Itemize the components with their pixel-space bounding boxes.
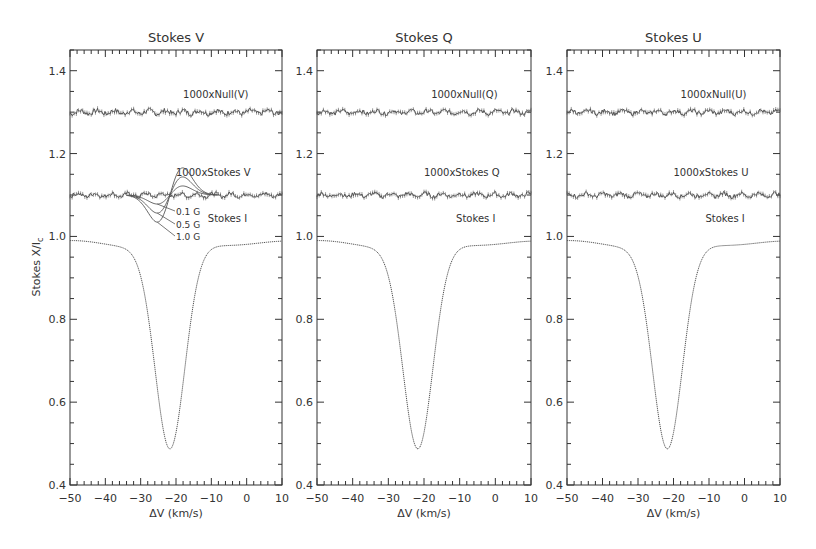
chart-canvas: Stokes V−50−40−30−20−10010ΔV (km/s)0.40.…: [0, 0, 816, 549]
y-tick-label: 0.4: [49, 479, 67, 492]
x-tick-label: 0: [492, 492, 499, 505]
model-label: 1.0 G: [176, 232, 200, 242]
series-label: 1000xStokes V: [176, 167, 251, 178]
x-tick-label: −40: [94, 492, 117, 505]
x-axis-label: ΔV (km/s): [397, 507, 451, 520]
series-label: Stokes I: [456, 213, 495, 224]
y-tick-label: 1.2: [296, 148, 314, 161]
series-label: Stokes I: [705, 213, 744, 224]
x-tick-label: −40: [591, 492, 614, 505]
y-tick-label: 0.8: [546, 313, 564, 326]
x-tick-label: 0: [243, 492, 250, 505]
y-tick-label: 0.8: [296, 313, 314, 326]
y-tick-label: 0.6: [49, 396, 67, 409]
y-tick-label: 1.0: [546, 230, 564, 243]
y-tick-label: 1.2: [546, 148, 564, 161]
y-axis-label: Stokes X/Ic: [30, 238, 45, 297]
y-tick-label: 1.0: [49, 230, 67, 243]
y-tick-label: 1.2: [49, 148, 67, 161]
panel-stokes-q: Stokes Q−50−40−30−20−10010ΔV (km/s)0.40.…: [296, 30, 539, 520]
stokes-i-profile: [567, 241, 780, 449]
x-tick-label: −50: [58, 492, 81, 505]
x-tick-label: −10: [200, 492, 223, 505]
y-tick-label: 0.6: [296, 396, 314, 409]
y-tick-label: 0.4: [296, 479, 314, 492]
x-tick-label: 0: [741, 492, 748, 505]
y-tick-label: 0.4: [546, 479, 564, 492]
x-tick-label: −10: [448, 492, 471, 505]
series-label: 1000xNull(V): [183, 89, 248, 100]
x-tick-label: −50: [305, 492, 328, 505]
series-label: 1000xNull(U): [681, 89, 747, 100]
x-tick-label: −10: [697, 492, 720, 505]
panel-stokes-v: Stokes V−50−40−30−20−10010ΔV (km/s)0.40.…: [49, 30, 290, 520]
series-label: 1000xStokes Q: [424, 167, 500, 178]
x-axis-label: ΔV (km/s): [647, 507, 701, 520]
series-label: 1000xStokes U: [674, 167, 749, 178]
panel-stokes-u: Stokes U−50−40−30−20−10010ΔV (km/s)0.40.…: [546, 30, 788, 520]
stokes-i-profile: [317, 241, 531, 449]
x-axis-label: ΔV (km/s): [149, 507, 203, 520]
x-tick-label: −40: [341, 492, 364, 505]
y-tick-label: 1.0: [296, 230, 314, 243]
x-tick-label: 10: [524, 492, 538, 505]
panel-title: Stokes U: [645, 30, 702, 45]
model-label: 0.5 G: [176, 220, 200, 230]
y-tick-label: 0.6: [546, 396, 564, 409]
x-tick-label: −30: [626, 492, 649, 505]
series-label: Stokes I: [208, 213, 247, 224]
panel-title: Stokes V: [148, 30, 204, 45]
stokes-profiles-figure: Stokes V−50−40−30−20−10010ΔV (km/s)0.40.…: [0, 0, 816, 549]
stokes-i-profile: [70, 241, 282, 449]
x-tick-label: −20: [164, 492, 187, 505]
panel-title: Stokes Q: [395, 30, 453, 45]
x-tick-label: −50: [555, 492, 578, 505]
x-tick-label: 10: [773, 492, 787, 505]
y-tick-label: 0.8: [49, 313, 67, 326]
series-label: 1000xNull(Q): [431, 89, 498, 100]
y-tick-label: 1.4: [49, 65, 67, 78]
x-tick-label: −30: [377, 492, 400, 505]
x-tick-label: −20: [662, 492, 685, 505]
x-tick-label: 10: [275, 492, 289, 505]
y-tick-label: 1.4: [546, 65, 564, 78]
x-tick-label: −20: [412, 492, 435, 505]
x-tick-label: −30: [129, 492, 152, 505]
y-tick-label: 1.4: [296, 65, 314, 78]
model-label: 0.1 G: [176, 207, 200, 217]
